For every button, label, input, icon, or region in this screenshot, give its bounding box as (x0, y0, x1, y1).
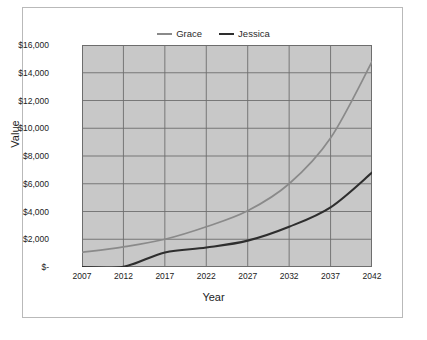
x-tick-label: 2007 (62, 271, 102, 281)
y-tick-label: $2,000 (0, 234, 49, 244)
x-tick-label: 2037 (311, 271, 351, 281)
chart-panel: Grace Jessica $16,000$14,000$12,000$10,0… (22, 7, 403, 318)
y-axis-title: Value (9, 120, 21, 147)
legend-item-grace[interactable]: Grace (157, 28, 202, 39)
x-tick-label: 2022 (186, 271, 226, 281)
x-tick-label: 2027 (228, 271, 268, 281)
legend-label-jessica: Jessica (238, 28, 270, 39)
y-tick-label: $- (0, 262, 49, 272)
legend-line-swatch-jessica (219, 33, 234, 35)
y-tick-label: $10,000 (0, 123, 49, 133)
legend-item-jessica[interactable]: Jessica (219, 28, 270, 39)
y-tick-label: $14,000 (0, 68, 49, 78)
x-tick-label: 2017 (145, 271, 185, 281)
series-line-grace (82, 62, 372, 253)
plot-svg (82, 45, 372, 267)
y-tick-label: $6,000 (0, 179, 49, 189)
plot-region (82, 45, 372, 267)
x-tick-label: 2042 (352, 271, 392, 281)
y-tick-label: $4,000 (0, 207, 49, 217)
y-tick-label: $8,000 (0, 151, 49, 161)
legend-line-swatch-grace (157, 33, 172, 35)
gridlines (82, 45, 372, 267)
series-lines (82, 62, 372, 267)
x-axis-title: Year (23, 291, 404, 303)
y-tick-label: $16,000 (0, 40, 49, 50)
legend-label-grace: Grace (176, 28, 202, 39)
x-tick-label: 2032 (269, 271, 309, 281)
chart-screenshot: Grace Jessica $16,000$14,000$12,000$10,0… (0, 0, 427, 340)
chart-title (23, 0, 404, 8)
chart-legend: Grace Jessica (23, 28, 404, 39)
y-tick-label: $12,000 (0, 96, 49, 106)
x-tick-label: 2012 (103, 271, 143, 281)
